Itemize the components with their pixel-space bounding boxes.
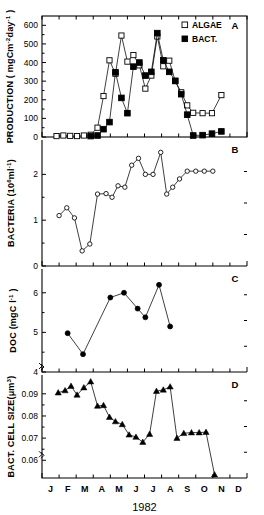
data-point-filled-square xyxy=(101,126,107,132)
data-point-triangle xyxy=(167,384,173,389)
data-point-triangle xyxy=(174,435,180,440)
panel-d: 0.060.070.080.09DBACT. CELL SIZE(μm3) xyxy=(5,375,247,478)
panel-frame xyxy=(42,269,247,372)
data-point-filled-square xyxy=(155,30,161,36)
panel-b: 012BBACTERIA (106ml-1) xyxy=(5,140,247,271)
figure-container: 0100200300400500600APRODUCTION ( mgCm-2d… xyxy=(0,0,264,515)
y-tick-label: 300 xyxy=(24,76,38,86)
data-point-filled-square xyxy=(143,73,149,79)
data-point-open-circle xyxy=(65,206,69,210)
data-point-open-circle xyxy=(170,185,174,189)
data-point-triangle xyxy=(188,429,194,434)
data-point-open-square xyxy=(74,133,79,138)
y-tick-label: 0.09 xyxy=(21,389,38,399)
data-point-filled-square xyxy=(219,129,225,135)
data-point-open-square xyxy=(167,58,172,63)
data-point-triangle xyxy=(203,429,209,434)
data-point-filled-square xyxy=(149,69,155,75)
data-point-triangle xyxy=(112,418,118,423)
data-point-open-square xyxy=(119,33,124,38)
data-point-open-circle xyxy=(123,185,127,189)
series-line-algae xyxy=(57,36,222,137)
data-point-filled-circle xyxy=(143,315,148,320)
data-point-open-circle xyxy=(110,195,114,199)
data-point-triangle xyxy=(160,387,166,392)
month-tick-f-1: F xyxy=(65,484,71,494)
legend: ALGAEBACT. xyxy=(182,20,222,44)
data-point-open-square xyxy=(209,111,214,116)
data-point-open-circle xyxy=(80,249,84,253)
data-point-open-circle xyxy=(116,184,120,188)
data-point-open-square xyxy=(81,133,86,138)
y-tick-label: 6 xyxy=(33,288,38,298)
multi-panel-chart: 0100200300400500600APRODUCTION ( mgCm-2d… xyxy=(0,0,264,515)
data-point-open-circle xyxy=(143,172,147,176)
data-point-filled-square xyxy=(178,91,184,97)
data-point-open-circle xyxy=(95,192,99,196)
month-tick-a-7: A xyxy=(167,484,174,494)
data-point-triangle xyxy=(211,472,217,477)
data-point-filled-square xyxy=(209,131,215,137)
data-point-open-circle xyxy=(159,150,163,154)
data-point-open-circle xyxy=(136,156,140,160)
data-point-open-circle xyxy=(88,242,92,246)
data-point-open-square xyxy=(143,86,148,91)
data-point-filled-circle xyxy=(81,352,86,357)
panel-c: 456CDOC (mgC l-1 ) xyxy=(7,269,247,377)
data-point-open-square xyxy=(68,133,73,138)
panel-frame xyxy=(42,140,247,266)
y-tick-label: 600 xyxy=(24,20,38,30)
data-point-triangle xyxy=(100,402,106,407)
x-axis-month-labels: JFMAMJJASOND xyxy=(48,484,242,494)
data-point-open-circle xyxy=(185,169,189,173)
data-point-open-square xyxy=(95,125,100,130)
y-tick-label: 5 xyxy=(33,327,38,337)
y-tick-label: 0.07 xyxy=(21,433,38,443)
data-point-filled-circle xyxy=(65,331,70,336)
data-point-open-circle xyxy=(151,172,155,176)
y-tick-label: 4 xyxy=(33,367,38,377)
legend-marker-open-square xyxy=(182,22,188,28)
month-tick-s-8: S xyxy=(184,484,190,494)
data-point-filled-square xyxy=(113,69,119,75)
data-point-open-square xyxy=(54,133,59,138)
y-tick-label: 0 xyxy=(33,132,38,142)
panel-a: 0100200300400500600APRODUCTION ( mgCm-2d… xyxy=(4,10,247,144)
y-tick-label: 100 xyxy=(24,113,38,123)
y-axis-label: BACT. CELL SIZE(μm3) xyxy=(5,376,16,478)
data-point-filled-circle xyxy=(157,282,162,287)
y-axis-label: BACTERIA (106ml-1) xyxy=(5,159,16,247)
month-tick-j-5: J xyxy=(133,484,138,494)
legend-label-algae: ALGAE xyxy=(192,20,222,30)
data-point-triangle xyxy=(106,414,112,419)
panel-letter-d: D xyxy=(232,379,239,390)
data-point-triangle xyxy=(62,387,68,392)
y-tick-label: 500 xyxy=(24,39,38,49)
data-point-filled-square xyxy=(95,133,101,139)
y-tick-label: 0 xyxy=(33,261,38,271)
data-point-open-square xyxy=(61,133,66,138)
y-tick-label: 0.06 xyxy=(21,455,38,465)
y-axis-label: DOC (mgC l-1 ) xyxy=(7,288,18,352)
data-point-filled-square xyxy=(160,58,166,64)
data-point-filled-square xyxy=(184,112,190,118)
month-tick-m-4: M xyxy=(115,484,123,494)
data-point-open-circle xyxy=(57,213,61,217)
data-point-filled-square xyxy=(119,95,125,101)
month-tick-j-0: J xyxy=(48,484,53,494)
data-point-open-square xyxy=(219,93,224,98)
data-point-filled-square xyxy=(200,132,206,138)
month-tick-m-2: M xyxy=(81,484,89,494)
data-point-open-circle xyxy=(194,169,198,173)
series-line-bacteria xyxy=(59,152,213,251)
data-point-open-square xyxy=(107,58,112,63)
data-point-open-square xyxy=(101,93,106,98)
month-tick-a-3: A xyxy=(99,484,106,494)
data-point-triangle xyxy=(68,383,74,388)
y-axis-label: PRODUCTION ( mgCm-2day-1 ) xyxy=(4,10,15,144)
panel-letter-b: B xyxy=(232,144,239,155)
data-point-open-square xyxy=(200,111,205,116)
series-line-bact-cell-size xyxy=(58,382,214,475)
y-tick-label: 1 xyxy=(33,215,38,225)
data-point-filled-square xyxy=(166,69,172,75)
